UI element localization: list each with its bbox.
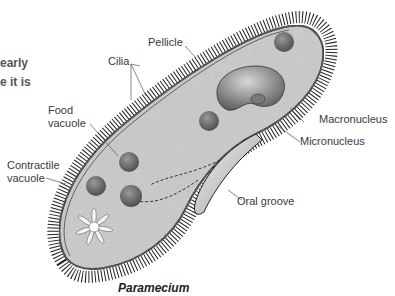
label-contractile-vacuole-line2: vacuole — [7, 172, 45, 185]
paramecium-diagram: early e it is Pellicle Cilia Food vacuol… — [0, 0, 395, 296]
figure-caption: Paramecium — [118, 281, 189, 295]
label-oral-groove: Oral groove — [237, 195, 294, 208]
label-food-vacuole-line1: Food — [48, 104, 73, 117]
label-contractile-vacuole-line1: Contractile — [7, 159, 60, 172]
micronucleus — [251, 94, 265, 104]
label-micronucleus: Micronucleus — [300, 135, 365, 148]
label-cilia: Cilia — [108, 55, 129, 68]
food-vacuole — [86, 176, 106, 196]
food-vacuole — [274, 32, 294, 52]
label-pellicle: Pellicle — [148, 36, 183, 49]
paramecium-illustration — [0, 0, 395, 296]
cropped-text-line-2: e it is — [0, 73, 31, 92]
food-vacuole — [119, 152, 139, 172]
label-macronucleus: Macronucleus — [319, 113, 387, 126]
food-vacuole — [199, 111, 219, 131]
cropped-text-line-1: early — [0, 54, 28, 73]
food-vacuole — [120, 185, 142, 207]
label-food-vacuole-line2: vacuole — [48, 117, 86, 130]
